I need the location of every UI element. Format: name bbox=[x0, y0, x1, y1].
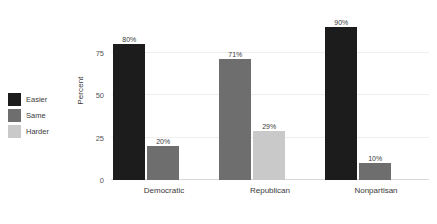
bar-chart-figure: EasierSameHarder Percent 0255075 80%20%7… bbox=[0, 0, 437, 224]
bar-slot: 90% bbox=[325, 10, 357, 180]
bar-nonpartisan-easier[interactable] bbox=[325, 27, 357, 180]
bar-republican-same[interactable] bbox=[219, 59, 251, 180]
bar-democratic-same[interactable] bbox=[147, 146, 179, 180]
bar-democratic-easier[interactable] bbox=[113, 44, 145, 180]
legend-item-easier[interactable]: Easier bbox=[8, 92, 70, 107]
bar-group-republican: 71%29% bbox=[217, 10, 323, 180]
x-tick-label-democratic: Democratic bbox=[111, 186, 217, 195]
legend-item-label: Same bbox=[26, 112, 46, 120]
legend-swatch-icon bbox=[8, 93, 21, 106]
legend-item-same[interactable]: Same bbox=[8, 108, 70, 123]
bar-republican-harder[interactable] bbox=[253, 131, 285, 180]
bar-slot: 29% bbox=[253, 10, 285, 180]
bar-groups: 80%20%71%29%90%10% bbox=[111, 10, 429, 180]
y-tick-label: 50 bbox=[96, 91, 104, 100]
bar-nonpartisan-same[interactable] bbox=[359, 163, 391, 180]
legend-item-label: Harder bbox=[26, 128, 49, 136]
plot-area: 80%20%71%29%90%10% bbox=[111, 10, 429, 180]
bar-slot: 20% bbox=[147, 10, 179, 180]
legend-swatch-icon bbox=[8, 109, 21, 122]
bar-slot: 80% bbox=[113, 10, 145, 180]
x-tick-label-republican: Republican bbox=[217, 186, 323, 195]
legend-swatch-icon bbox=[8, 125, 21, 138]
legend-item-harder[interactable]: Harder bbox=[8, 124, 70, 139]
y-axis-ticks: 0255075 bbox=[86, 10, 108, 180]
x-tick-label-nonpartisan: Nonpartisan bbox=[323, 186, 429, 195]
y-axis-title-label: Percent bbox=[76, 76, 85, 104]
x-axis-labels: DemocraticRepublicanNonpartisan bbox=[111, 186, 429, 195]
bar-value-label: 20% bbox=[147, 138, 179, 145]
y-tick-label: 75 bbox=[96, 48, 104, 57]
legend-item-label: Easier bbox=[26, 96, 47, 104]
bar-group-nonpartisan: 90%10% bbox=[323, 10, 429, 180]
bar-value-label: 90% bbox=[325, 19, 357, 26]
bar-slot: 71% bbox=[219, 10, 251, 180]
bar-slot: 10% bbox=[359, 10, 391, 180]
y-axis-title: Percent bbox=[74, 0, 86, 180]
bar-group-democratic: 80%20% bbox=[111, 10, 217, 180]
bar-value-label: 71% bbox=[219, 51, 251, 58]
y-tick-label: 0 bbox=[100, 176, 104, 185]
y-tick-label: 25 bbox=[96, 133, 104, 142]
bar-value-label: 80% bbox=[113, 36, 145, 43]
chart-legend: EasierSameHarder bbox=[8, 92, 70, 140]
bar-value-label: 29% bbox=[253, 123, 285, 130]
bar-value-label: 10% bbox=[359, 155, 391, 162]
